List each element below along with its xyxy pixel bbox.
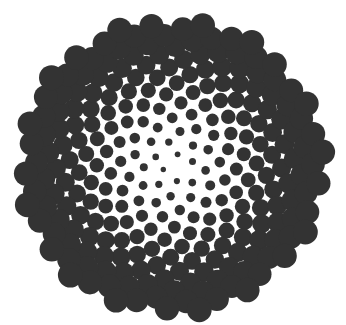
dot xyxy=(214,74,232,92)
dot xyxy=(239,30,264,55)
dot xyxy=(273,244,297,268)
dot xyxy=(144,223,157,236)
dot xyxy=(120,215,134,229)
dot xyxy=(174,96,187,109)
dot xyxy=(130,229,145,244)
dot xyxy=(104,288,129,313)
dot xyxy=(293,220,318,245)
dot xyxy=(294,92,319,117)
dot xyxy=(230,163,243,176)
dot xyxy=(186,85,201,100)
dot xyxy=(153,123,163,133)
dot xyxy=(114,232,131,249)
spiral-dots xyxy=(14,13,335,322)
dot xyxy=(82,100,100,118)
dot xyxy=(222,143,234,155)
dot xyxy=(190,13,215,38)
dot xyxy=(121,116,134,129)
dot xyxy=(219,174,231,186)
dot xyxy=(201,166,210,175)
dot xyxy=(139,181,148,190)
dot xyxy=(100,145,113,158)
dot xyxy=(155,181,162,188)
dot xyxy=(215,157,226,168)
dot xyxy=(203,145,213,155)
dot xyxy=(213,93,229,109)
dot xyxy=(90,131,105,146)
dot xyxy=(64,45,88,69)
dot xyxy=(236,213,253,230)
dot xyxy=(114,136,126,148)
dot xyxy=(161,167,166,172)
dot xyxy=(90,158,104,172)
dot xyxy=(187,297,212,322)
dot xyxy=(151,198,161,208)
dot xyxy=(186,193,195,202)
dot xyxy=(118,99,133,114)
dot xyxy=(188,211,200,223)
dot xyxy=(237,147,251,161)
dot xyxy=(219,223,235,239)
dot xyxy=(107,18,132,43)
dot xyxy=(137,98,151,112)
dot xyxy=(205,180,215,190)
dot xyxy=(167,112,178,123)
dot xyxy=(216,194,228,206)
dot xyxy=(166,192,174,200)
dot xyxy=(310,140,335,165)
dot xyxy=(144,241,160,257)
dot xyxy=(98,199,113,214)
dot xyxy=(175,151,181,157)
dot xyxy=(70,132,87,149)
dot xyxy=(140,163,148,171)
dot xyxy=(157,211,168,222)
dot xyxy=(157,232,172,247)
dot xyxy=(183,226,197,240)
dot xyxy=(138,116,149,127)
dot xyxy=(130,150,139,159)
dot xyxy=(40,237,64,261)
dot xyxy=(219,208,233,222)
dot xyxy=(208,130,219,141)
dot xyxy=(136,210,148,222)
dot xyxy=(191,124,201,134)
dot xyxy=(174,178,180,184)
dot xyxy=(198,98,212,112)
dot xyxy=(134,195,145,206)
dot xyxy=(117,185,129,197)
dot xyxy=(58,263,83,288)
phyllotaxis-pattern xyxy=(0,0,346,325)
dot xyxy=(99,182,113,196)
dot xyxy=(189,142,197,150)
dot xyxy=(152,154,159,161)
dot xyxy=(235,278,260,303)
dot xyxy=(103,216,119,232)
dot xyxy=(229,186,243,200)
dot xyxy=(168,221,181,234)
dot xyxy=(15,192,40,217)
dot xyxy=(201,197,212,208)
dot xyxy=(176,127,185,136)
dot xyxy=(128,246,146,264)
dot xyxy=(105,167,118,180)
dot xyxy=(104,121,118,135)
dot xyxy=(153,103,165,115)
dot xyxy=(189,158,196,165)
dot xyxy=(252,199,270,217)
dot xyxy=(165,138,172,145)
dot xyxy=(100,105,116,121)
dot xyxy=(200,227,215,242)
dot xyxy=(203,213,216,226)
dot xyxy=(189,179,197,187)
dot xyxy=(147,138,156,147)
dot xyxy=(115,156,126,167)
dot xyxy=(159,87,173,101)
dot xyxy=(155,296,179,320)
dot xyxy=(241,172,256,187)
dot xyxy=(239,129,254,144)
dot xyxy=(228,92,245,109)
dot xyxy=(262,52,286,76)
dot xyxy=(130,133,141,144)
dot xyxy=(139,14,163,38)
dot xyxy=(306,171,330,195)
